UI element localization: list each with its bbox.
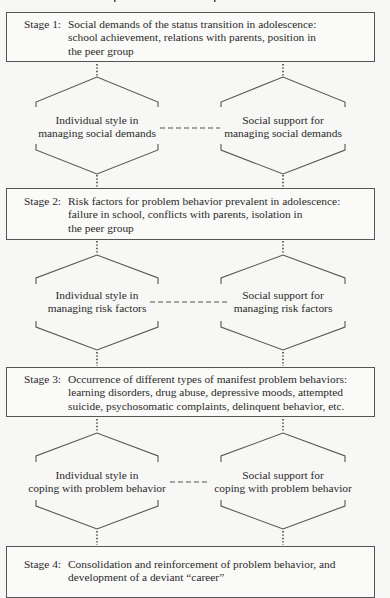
stage-3-text: Occurrence of different types of manifes… <box>68 373 347 413</box>
stage-4-text: Consolidation and reinforcement of probl… <box>68 558 335 585</box>
stage-1-text: Social demands of the status transition … <box>68 18 316 58</box>
stage-2-box: Stage 2: Risk factors for problem behavi… <box>6 188 375 240</box>
moderator-1-individual-style: Individual style in managing social dema… <box>36 114 158 141</box>
stage-4-box: Stage 4: Consolidation and reinforcement… <box>6 546 375 598</box>
stage-1-box: Stage 1: Social demands of the status tr… <box>6 12 375 62</box>
stage-4-label: Stage 4: <box>24 558 68 585</box>
moderator-1-social-support: Social support for managing social deman… <box>221 114 345 141</box>
stage-2-text: Risk factors for problem behavior preval… <box>68 195 340 235</box>
moderator-2-social-support: Social support for managing risk factors <box>221 289 345 316</box>
stage-1-label: Stage 1: <box>24 18 68 58</box>
moderator-3-individual-style: Individual style in coping with problem … <box>26 469 168 496</box>
stage-3-label: Stage 3: <box>24 373 68 413</box>
stage-2-label: Stage 2: <box>24 195 68 235</box>
hex-right-1-top <box>221 77 345 107</box>
moderator-3-social-support: Social support for coping with problem b… <box>211 469 355 496</box>
hex-left-1-bottom <box>36 144 158 174</box>
stage-3-box: Stage 3: Occurrence of different types o… <box>6 367 375 417</box>
hex-left-1-top <box>36 77 158 107</box>
moderator-2-individual-style: Individual style in managing risk factor… <box>36 289 158 316</box>
hex-right-1-bottom <box>221 144 345 174</box>
